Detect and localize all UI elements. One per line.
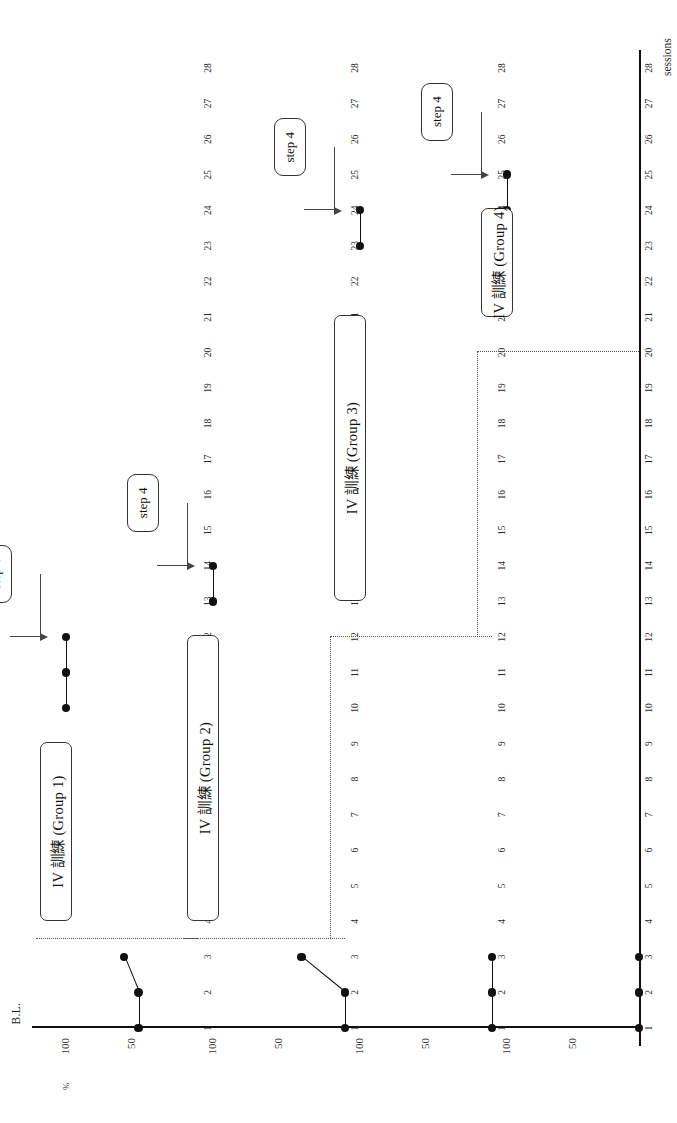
figure-page: 10050%1234567891011121314151617181920212…	[0, 0, 677, 1123]
step-annotation-panel-3: step 4	[274, 118, 306, 176]
x-tick-label-panel-4: 26	[645, 131, 655, 147]
x-tick-label-panel-2: 4	[351, 913, 361, 929]
intervention-box-panel-2: IV 訓練 (Group 2)	[187, 635, 219, 921]
x-tick-label-panel-4: 23	[645, 238, 655, 254]
intervention-box-panel-1: IV 訓練 (Group 1)	[40, 742, 72, 922]
step-annotation-panel-2: step 4	[127, 474, 159, 532]
data-point	[488, 988, 497, 997]
callout-arrow-panel-3	[334, 207, 342, 215]
x-tick-label-panel-3: 2	[498, 984, 508, 1000]
callout-leader-panel-1	[10, 574, 41, 637]
y-tick-label-panel-2: 50	[274, 1038, 283, 1068]
multiple-baseline-chart: 10050%1234567891011121314151617181920212…	[0, 0, 677, 1123]
series-line-baseline-panel-2	[345, 992, 346, 1028]
x-axis-line	[639, 50, 641, 1046]
x-tick-label-panel-2: 22	[351, 273, 361, 289]
x-tick-label-panel-2: 25	[351, 167, 361, 183]
x-tick-label-panel-4: 7	[645, 807, 655, 823]
y-axis-line-panel-2	[179, 1026, 345, 1028]
y-axis-line-panel-1	[32, 1026, 198, 1028]
x-tick-label-panel-3: 1	[498, 1020, 508, 1036]
series-line-baseline-panel-1	[139, 992, 140, 1028]
data-point	[356, 242, 365, 251]
data-point	[297, 953, 306, 962]
x-tick-label-panel-4: 17	[645, 451, 655, 467]
x-tick-label-panel-2: 28	[351, 60, 361, 76]
callout-leader-panel-4	[451, 112, 482, 175]
data-point	[134, 1024, 143, 1033]
x-tick-label-panel-1: 23	[204, 238, 214, 254]
x-tick-label-panel-3: 14	[498, 558, 508, 574]
series-line-baseline-panel-4	[639, 992, 640, 1028]
x-tick-label-panel-4: 11	[645, 664, 655, 680]
data-point	[635, 1024, 644, 1033]
x-tick-label-panel-4: 28	[645, 60, 655, 76]
callout-arrow-panel-1	[40, 633, 48, 641]
x-tick-label-panel-4: 21	[645, 309, 655, 325]
x-tick-label-panel-1: 17	[204, 451, 214, 467]
x-tick-label-panel-4: 22	[645, 273, 655, 289]
x-tick-label-panel-3: 5	[498, 878, 508, 894]
x-tick-label-panel-3: 13	[498, 593, 508, 609]
data-point	[209, 597, 218, 606]
x-tick-label-panel-1: 21	[204, 309, 214, 325]
x-tick-label-panel-2: 1	[351, 1020, 361, 1036]
x-axis-title: sessions	[661, 38, 673, 76]
data-point	[341, 988, 350, 997]
data-point	[62, 668, 71, 677]
x-tick-label-panel-3: 10	[498, 700, 508, 716]
series-line-post-training-panel-3	[360, 210, 361, 246]
phase-line-panel-1	[36, 938, 198, 939]
x-tick-label-panel-1: 15	[204, 522, 214, 538]
x-tick-label-panel-3: 18	[498, 416, 508, 432]
data-point	[62, 704, 71, 713]
x-tick-label-panel-4: 10	[645, 700, 655, 716]
y-tick-label-panel-4: 100	[502, 1038, 511, 1068]
x-tick-label-panel-2: 8	[351, 771, 361, 787]
x-tick-label-panel-3: 6	[498, 842, 508, 858]
x-tick-label-panel-1: 2	[204, 984, 214, 1000]
x-tick-label-panel-3: 12	[498, 629, 508, 645]
rotated-figure-canvas: 10050%1234567891011121314151617181920212…	[0, 0, 677, 1123]
series-line-post-training-panel-1	[66, 672, 67, 708]
series-line-post-training-panel-1	[66, 637, 67, 673]
step-annotation-panel-4: step 4	[421, 83, 453, 141]
data-point	[488, 953, 497, 962]
x-tick-label-panel-4: 3	[645, 949, 655, 965]
y-tick-label-panel-1: 100	[61, 1038, 70, 1068]
x-tick-label-panel-4: 9	[645, 736, 655, 752]
x-tick-label-panel-4: 2	[645, 984, 655, 1000]
x-tick-label-panel-2: 2	[351, 984, 361, 1000]
x-tick-label-panel-4: 5	[645, 878, 655, 894]
y-tick-label-panel-2: 100	[208, 1038, 217, 1068]
intervention-box-panel-3: IV 訓練 (Group 3)	[334, 315, 366, 601]
x-tick-label-panel-3: 20	[498, 344, 508, 360]
x-tick-label-panel-1: 1	[204, 1020, 214, 1036]
x-tick-label-panel-4: 14	[645, 558, 655, 574]
x-tick-label-panel-3: 26	[498, 131, 508, 147]
x-tick-label-panel-3: 16	[498, 487, 508, 503]
phase-line-panel-3	[330, 636, 492, 637]
series-line-baseline-panel-4	[639, 957, 640, 993]
x-tick-label-panel-1: 16	[204, 487, 214, 503]
x-tick-label-panel-2: 27	[351, 96, 361, 112]
data-point	[635, 988, 644, 997]
x-tick-label-panel-3: 7	[498, 807, 508, 823]
x-tick-label-panel-4: 25	[645, 167, 655, 183]
x-tick-label-panel-4: 20	[645, 344, 655, 360]
x-tick-label-panel-3: 4	[498, 913, 508, 929]
data-point	[209, 562, 218, 571]
x-tick-label-panel-2: 7	[351, 807, 361, 823]
x-tick-label-panel-2: 26	[351, 131, 361, 147]
x-tick-label-panel-3: 8	[498, 771, 508, 787]
series-line-baseline-panel-2	[302, 957, 346, 993]
x-tick-label-panel-1: 19	[204, 380, 214, 396]
x-tick-label-panel-1: 22	[204, 273, 214, 289]
x-tick-label-panel-4: 12	[645, 629, 655, 645]
x-tick-label-panel-3: 15	[498, 522, 508, 538]
y-tick-label-panel-3: 50	[421, 1038, 430, 1068]
data-point	[503, 170, 512, 179]
callout-leader-panel-2	[157, 503, 188, 566]
callout-arrow-panel-4	[481, 171, 489, 179]
x-tick-label-panel-4: 4	[645, 913, 655, 929]
